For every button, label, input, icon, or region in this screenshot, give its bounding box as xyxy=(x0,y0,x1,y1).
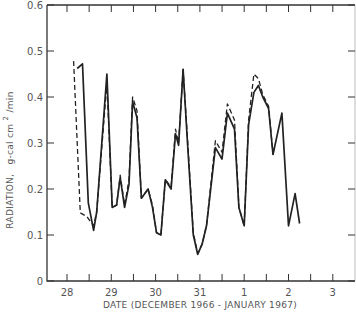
plot-frame xyxy=(47,5,355,281)
y-tick-label: 0.5 xyxy=(27,46,43,57)
x-tick-label: 29 xyxy=(105,287,118,298)
y-axis-ticks: 00.10.20.30.40.50.6 xyxy=(27,0,355,287)
y-axis-title-tail: /min xyxy=(5,91,15,112)
y-axis-title-main: RADIATION, xyxy=(5,174,15,229)
y-tick-label: 0.1 xyxy=(27,230,43,241)
y-tick-label: 0.3 xyxy=(27,138,43,149)
axis-lines xyxy=(47,5,355,281)
x-tick-label: 2 xyxy=(285,287,291,298)
x-tick-label: 28 xyxy=(61,287,74,298)
y-axis-title: RADIATION, g-cal cm 2 /min xyxy=(0,91,15,228)
y-tick-label: 0.4 xyxy=(27,92,43,103)
x-axis-title: DATE (DECEMBER 1966 - JANUARY 1967) xyxy=(103,300,297,310)
x-tick-label: 31 xyxy=(194,287,207,298)
svg-text:RADIATION, g-cal cm: RADIATION, g-cal cm 2 /min xyxy=(0,91,15,228)
y-tick-label: 0.6 xyxy=(27,0,43,11)
y-tick-label: 0 xyxy=(37,276,43,287)
y-tick-label: 0.2 xyxy=(27,184,43,195)
y-axis-title-units: g-cal cm xyxy=(5,124,15,165)
radiation-line-chart: 00.10.20.30.40.50.6 28293031123 DATE (DE… xyxy=(0,0,356,316)
x-tick-label: 30 xyxy=(149,287,162,298)
y-axis-title-superscript: 2 xyxy=(2,116,10,121)
x-tick-label: 1 xyxy=(241,287,247,298)
x-tick-label: 3 xyxy=(330,287,336,298)
data-series xyxy=(74,61,300,254)
